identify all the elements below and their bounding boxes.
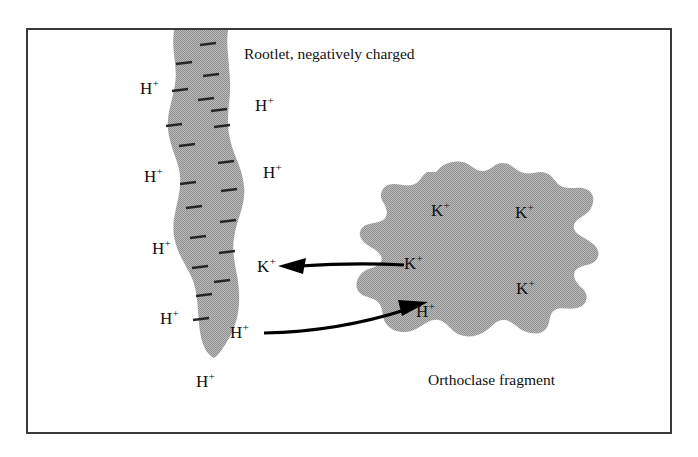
orthoclase-ion-label-h-received: H+ bbox=[416, 303, 435, 320]
rootlet-ion-label-h-3: H+ bbox=[263, 164, 282, 181]
ion-species: K bbox=[257, 257, 269, 276]
ion-charge: + bbox=[275, 161, 282, 173]
ion-charge: + bbox=[416, 252, 423, 264]
orthoclase-ion-label-k-3: K+ bbox=[404, 255, 423, 272]
ion-species: K bbox=[516, 279, 528, 298]
ion-charge: + bbox=[152, 77, 159, 89]
ion-charge: + bbox=[428, 300, 435, 312]
ion-charge: + bbox=[164, 237, 171, 249]
ion-charge: + bbox=[156, 165, 163, 177]
ion-charge: + bbox=[267, 94, 274, 106]
rootlet-ion-label-h-1: H+ bbox=[140, 80, 159, 97]
rootlet-ion-label-h-6: H+ bbox=[160, 310, 179, 327]
rootlet-ion-label-k-received: K+ bbox=[257, 258, 276, 275]
ion-species: H bbox=[152, 239, 164, 258]
ion-species: H bbox=[230, 323, 242, 342]
rootlet-ion-label-h-5: H+ bbox=[152, 240, 171, 257]
ion-charge: + bbox=[269, 255, 276, 267]
ion-species: K bbox=[431, 201, 443, 220]
ion-charge: + bbox=[527, 201, 534, 213]
ion-species: H bbox=[144, 167, 156, 186]
ion-species: K bbox=[515, 203, 527, 222]
rootlet-ion-label-h-4: H+ bbox=[144, 168, 163, 185]
rootlet-ion-label-h-2: H+ bbox=[255, 97, 274, 114]
ion-species: K bbox=[404, 254, 416, 273]
ion-species: H bbox=[160, 309, 172, 328]
ion-charge: + bbox=[242, 321, 249, 333]
figure-root: Rootlet, negatively charged Orthoclase f… bbox=[0, 0, 698, 457]
rootlet-ion-label-h-donated: H+ bbox=[230, 324, 249, 341]
ion-charge: + bbox=[528, 277, 535, 289]
diagram-frame-border bbox=[26, 28, 672, 434]
ion-species: H bbox=[416, 302, 428, 321]
ion-species: H bbox=[263, 163, 275, 182]
rootlet-ion-label-h-7: H+ bbox=[196, 373, 215, 390]
ion-charge: + bbox=[172, 307, 179, 319]
orthoclase-caption: Orthoclase fragment bbox=[428, 372, 555, 388]
ion-species: H bbox=[255, 96, 267, 115]
orthoclase-ion-label-k-2: K+ bbox=[515, 204, 534, 221]
ion-charge: + bbox=[443, 199, 450, 211]
ion-charge: + bbox=[208, 370, 215, 382]
orthoclase-ion-label-k-4: K+ bbox=[516, 280, 535, 297]
orthoclase-ion-label-k-1: K+ bbox=[431, 202, 450, 219]
ion-species: H bbox=[196, 372, 208, 391]
rootlet-caption: Rootlet, negatively charged bbox=[244, 46, 415, 62]
ion-species: H bbox=[140, 79, 152, 98]
